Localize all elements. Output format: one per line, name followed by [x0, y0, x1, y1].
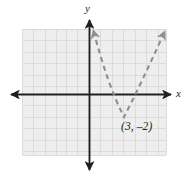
coordinate-plane	[0, 0, 188, 177]
y-axis-label: y	[85, 3, 90, 14]
vertex-coordinate-label: (3, –2)	[121, 121, 152, 133]
grid-panel	[22, 29, 166, 155]
graph-figure: y x (3, –2)	[0, 0, 188, 177]
x-axis-label: x	[176, 88, 181, 99]
